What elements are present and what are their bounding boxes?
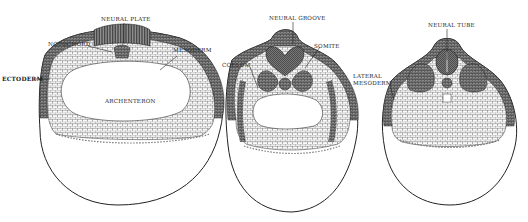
label-neural-plate: NEURAL PLATE bbox=[101, 17, 150, 23]
label-notochord: NOTOCHORD bbox=[48, 42, 91, 48]
label-archenteron: ARCHENTERON bbox=[105, 99, 156, 105]
embryo-neurulation-diagram: NEURAL PLATE NOTOCHORD MESODERM ECTODERM… bbox=[0, 0, 528, 222]
label-neural-groove: NEURAL GROOVE bbox=[269, 16, 326, 22]
label-neural-tube: NEURAL TUBE bbox=[428, 23, 475, 29]
label-somite: SOMITE bbox=[314, 44, 340, 50]
label-mesoderm: MESODERM bbox=[173, 48, 212, 54]
label-lateral-mesoderm-line2: MESODERM bbox=[353, 81, 392, 87]
label-coelom: COELOM bbox=[222, 63, 250, 69]
label-lateral-mesoderm-line1: LATERAL bbox=[353, 74, 382, 80]
diagram-drawing bbox=[0, 0, 528, 222]
embryo-stage-2 bbox=[226, 22, 358, 212]
embryo-stage-3 bbox=[382, 29, 516, 205]
label-ectoderm: ECTODERM bbox=[2, 77, 43, 83]
